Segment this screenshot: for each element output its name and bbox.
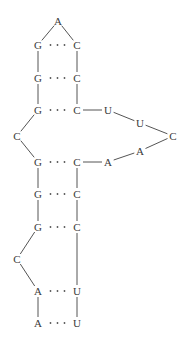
backbone-bond — [62, 26, 74, 41]
nucleotide-label: C — [13, 130, 20, 142]
rna-secondary-structure-diagram: AACGGGCGGGACCCUUCAACCCUU — [0, 0, 184, 341]
nucleotide-label: C — [73, 221, 80, 233]
base-pair-dots — [50, 44, 66, 46]
nucleotide-label: U — [73, 317, 81, 329]
backbone-bond — [21, 115, 34, 132]
backbone-bond — [146, 139, 168, 149]
nucleotide-label: C — [73, 39, 80, 51]
nucleotide-label: U — [136, 117, 144, 129]
nucleotide-label: G — [34, 39, 42, 51]
nucleotide-label: G — [34, 221, 42, 233]
nucleotide-label: A — [136, 145, 144, 157]
nucleotide-label: G — [34, 156, 42, 168]
backbone-bonds — [20, 26, 167, 317]
nucleotide-label: C — [13, 253, 20, 265]
base-pair-dots — [50, 226, 66, 228]
nucleotide-label: A — [34, 317, 42, 329]
nucleotide-label: G — [34, 72, 42, 84]
nucleotide-label: C — [73, 156, 80, 168]
backbone-bond — [42, 26, 54, 41]
base-pair-dots — [50, 322, 66, 324]
nucleotide-label: G — [34, 188, 42, 200]
nucleotide-label: A — [104, 156, 112, 168]
base-pair-dots — [50, 109, 66, 111]
nucleotide-label: C — [73, 188, 80, 200]
base-pair-dots — [50, 290, 66, 292]
backbone-bond — [114, 112, 135, 120]
base-pair-dots — [50, 161, 66, 163]
base-pair-dots — [50, 77, 66, 79]
backbone-bond — [20, 264, 34, 286]
nucleotide-label: C — [73, 72, 80, 84]
nucleotide-label: C — [169, 130, 176, 142]
nucleotide-label: G — [34, 104, 42, 116]
nucleotide-label: U — [73, 285, 81, 297]
backbone-bond — [146, 125, 168, 134]
backbone-bond — [21, 141, 34, 158]
backbone-bond — [114, 153, 135, 160]
nucleotide-label: A — [34, 285, 42, 297]
base-pair-dots — [50, 193, 66, 195]
base-pair-dots — [50, 44, 66, 324]
nucleotide-label: U — [104, 104, 112, 116]
backbone-bond — [20, 232, 34, 254]
nucleotide-label: C — [73, 104, 80, 116]
nucleotide-label: A — [54, 15, 62, 27]
